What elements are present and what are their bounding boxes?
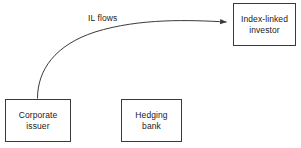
node-index-linked-investor[interactable]: Index-linked investor xyxy=(233,3,296,46)
node-corporate-issuer-label: Corporate issuer xyxy=(19,110,58,132)
node-hedging-bank-label: Hedging bank xyxy=(135,110,167,132)
node-index-linked-investor-label: Index-linked investor xyxy=(241,14,288,36)
edge-il-flows xyxy=(38,21,227,99)
node-corporate-issuer[interactable]: Corporate issuer xyxy=(5,99,71,142)
diagram-canvas: Corporate issuer Hedging bank Index-link… xyxy=(0,0,301,148)
node-hedging-bank[interactable]: Hedging bank xyxy=(121,99,182,142)
edge-label-il-flows: IL flows xyxy=(88,13,117,24)
